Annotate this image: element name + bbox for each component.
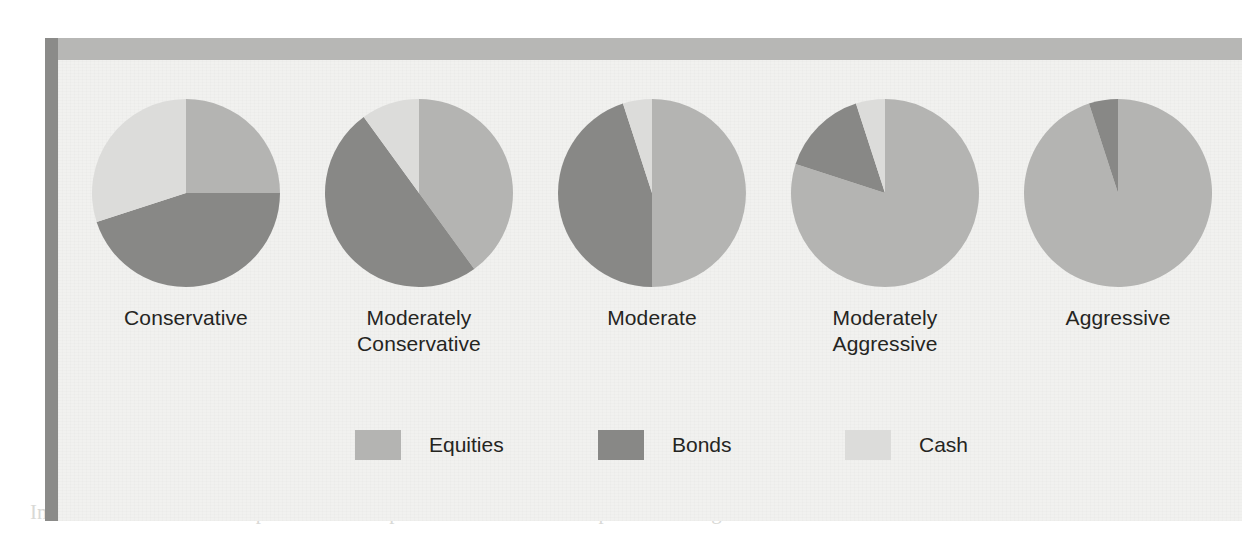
legend-label: Cash (919, 433, 968, 457)
panel-top-band (58, 38, 1242, 60)
equities-swatch (355, 430, 401, 460)
pie-chart-label-line: Moderately (775, 305, 995, 331)
pie-chart-cell: ModeratelyAggressive (775, 60, 995, 360)
pie-chart-label-line: Moderately (309, 305, 529, 331)
pie-moderately-aggressive[interactable] (790, 98, 980, 288)
pie-chart-label-line: Moderate (542, 305, 762, 331)
pie-chart-label: ModeratelyAggressive (775, 305, 995, 357)
pie-moderate[interactable] (557, 98, 747, 288)
pie-chart-cell: Aggressive (1008, 60, 1228, 360)
pie-chart-label: Moderate (542, 305, 762, 331)
pie-svg (557, 98, 747, 288)
pie-slice-equities[interactable] (652, 99, 746, 287)
pie-conservative[interactable] (91, 98, 281, 288)
pie-svg (1023, 98, 1213, 288)
legend-item[interactable]: Cash (845, 425, 968, 465)
pie-chart-cell: Conservative (76, 60, 296, 360)
legend-label: Bonds (672, 433, 732, 457)
pie-chart-cell: Moderate (542, 60, 762, 360)
legend-label: Equities (429, 433, 504, 457)
pie-chart-label: Aggressive (1008, 305, 1228, 331)
bonds-swatch (598, 430, 644, 460)
cash-swatch (845, 430, 891, 460)
pie-moderately-conservative[interactable] (324, 98, 514, 288)
chart-legend: EquitiesBondsCash (58, 425, 1242, 471)
panel-left-rule (45, 38, 58, 521)
pie-slice-equities[interactable] (1024, 99, 1212, 287)
legend-item[interactable]: Bonds (598, 425, 732, 465)
pie-chart-label-line: Conservative (309, 331, 529, 357)
pie-chart-row: ConservativeModeratelyConservativeModera… (58, 60, 1242, 360)
pie-svg (790, 98, 980, 288)
pie-chart-label: Conservative (76, 305, 296, 331)
pie-slice-equities[interactable] (186, 99, 280, 193)
pie-svg (324, 98, 514, 288)
legend-item[interactable]: Equities (355, 425, 504, 465)
pie-chart-label: ModeratelyConservative (309, 305, 529, 357)
pie-aggressive[interactable] (1023, 98, 1213, 288)
pie-chart-label-line: Aggressive (1008, 305, 1228, 331)
pie-chart-cell: ModeratelyConservative (309, 60, 529, 360)
pie-svg (91, 98, 281, 288)
pie-chart-label-line: Aggressive (775, 331, 995, 357)
pie-chart-label-line: Conservative (76, 305, 296, 331)
